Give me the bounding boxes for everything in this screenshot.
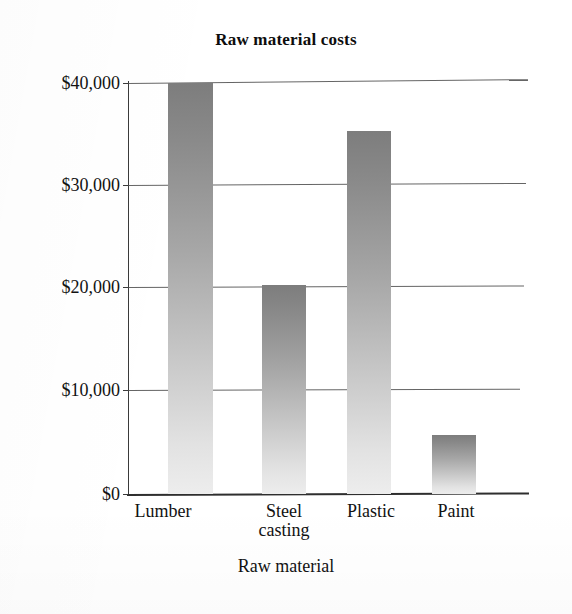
bar-lumber bbox=[168, 83, 213, 494]
ytick-mark-30000 bbox=[123, 185, 128, 186]
ytick-mark-20000 bbox=[123, 287, 128, 288]
category-label-plastic-line1: Plastic bbox=[326, 502, 416, 521]
category-label-paint-line1: Paint bbox=[411, 502, 501, 521]
ytick-label-40000: $40,000 bbox=[62, 74, 121, 92]
bar-steel-casting bbox=[262, 285, 306, 494]
ytick-mark-10000 bbox=[123, 390, 128, 391]
ytick-label-20000: $20,000 bbox=[62, 278, 121, 296]
category-label-lumber-line1: Lumber bbox=[118, 502, 208, 521]
category-label-steel-casting-line1: Steel bbox=[239, 502, 329, 521]
category-label-lumber: Lumber bbox=[118, 502, 208, 521]
ytick-label-30000: $30,000 bbox=[62, 176, 121, 194]
ytick-mark-40000 bbox=[123, 83, 128, 84]
chart-title: Raw material costs bbox=[0, 30, 572, 50]
x-axis-title: Raw material bbox=[0, 556, 572, 577]
category-label-plastic: Plastic bbox=[326, 502, 416, 521]
bar-plastic bbox=[347, 131, 391, 494]
bar-chart-figure: Raw material costs $40,000 $30,000 $20,0… bbox=[0, 0, 572, 614]
bar-paint bbox=[432, 435, 476, 494]
ytick-label-10000: $10,000 bbox=[62, 381, 121, 399]
plot-area: $40,000 $30,000 $20,000 $10,000 $0 bbox=[128, 83, 528, 494]
category-label-steel-casting-line2: casting bbox=[239, 521, 329, 540]
category-label-steel-casting: Steel casting bbox=[239, 502, 329, 540]
ytick-mark-0 bbox=[123, 494, 128, 495]
category-label-paint: Paint bbox=[411, 502, 501, 521]
ytick-label-0: $0 bbox=[102, 485, 120, 503]
y-axis-line bbox=[128, 81, 129, 496]
